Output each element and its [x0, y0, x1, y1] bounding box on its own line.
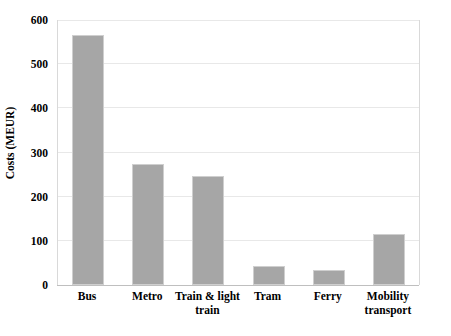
bar — [373, 234, 405, 285]
y-axis-title-text: Costs (MEUR) — [4, 106, 16, 179]
x-axis-tick-label-line: transport — [351, 303, 425, 317]
bar — [313, 270, 345, 285]
bar — [192, 176, 224, 285]
bar-chart: Costs (MEUR) 0100200300400500600 BusMetr… — [0, 0, 451, 336]
bar — [253, 266, 285, 285]
y-axis-tick-labels: 0100200300400500600 — [18, 20, 52, 285]
x-axis-tick-label-line: Mobility — [351, 289, 425, 303]
y-axis-tick-label: 200 — [31, 191, 48, 203]
gridline — [58, 107, 419, 108]
y-axis-tick-label: 0 — [42, 279, 48, 291]
y-axis-tick-label: 600 — [31, 14, 48, 26]
x-axis-line — [57, 285, 419, 286]
bar — [132, 164, 164, 285]
gridline — [58, 196, 419, 197]
y-axis-tick-label: 400 — [31, 102, 48, 114]
y-axis-tick-label: 300 — [31, 147, 48, 159]
gridline — [58, 152, 419, 153]
bar — [72, 35, 104, 285]
x-axis-tick-labels: BusMetroTrain & lighttrainTramFerryMobil… — [57, 289, 418, 336]
y-axis-title: Costs (MEUR) — [0, 0, 20, 285]
y-axis-tick-label: 100 — [31, 235, 48, 247]
y-axis-tick-label: 500 — [31, 58, 48, 70]
gridline — [58, 63, 419, 64]
x-axis-tick-label-line: train — [170, 303, 244, 317]
gridline — [58, 240, 419, 241]
x-axis-tick-label: Mobilitytransport — [351, 289, 425, 317]
plot-area — [57, 20, 420, 285]
